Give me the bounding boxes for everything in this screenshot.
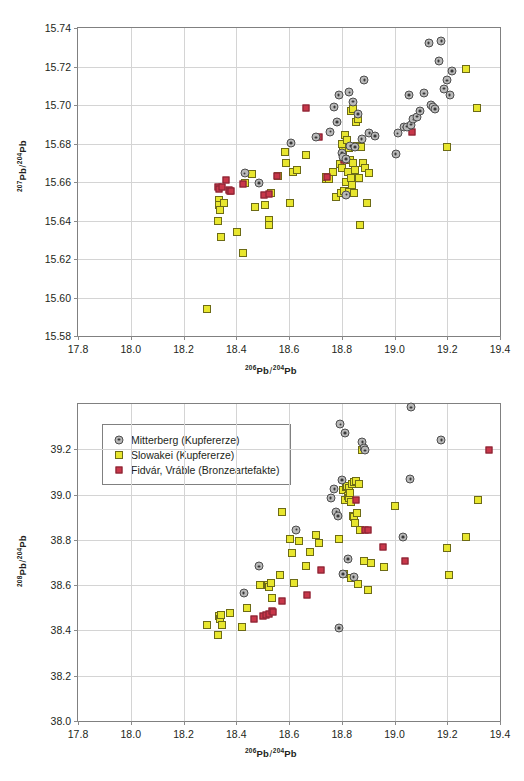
x-axis-title-base1: Pb (256, 748, 269, 759)
data-point (282, 159, 290, 167)
data-point (333, 512, 342, 521)
x-axis-tick-label: 19.0 (384, 728, 404, 740)
data-point (288, 549, 296, 557)
data-point (337, 475, 346, 484)
x-axis-tick (78, 336, 79, 340)
square-red-icon (112, 464, 126, 476)
data-point (265, 190, 272, 197)
data-point (214, 631, 222, 639)
square-yellow-icon (112, 449, 126, 461)
scatter-chart-pb207: 15.5815.6015.6215.6415.6615.6815.7015.72… (0, 0, 524, 390)
y-axis-tick-label: 15.72 (45, 61, 71, 73)
y-axis-tick-label: 15.74 (45, 22, 71, 34)
x-axis-tick-label: 18.0 (121, 728, 141, 740)
plot-area-pb207: 15.5815.6015.6215.6415.6615.6815.7015.72… (77, 27, 501, 337)
x-axis-tick (131, 721, 132, 725)
data-point (286, 199, 294, 207)
x-axis-tick (236, 721, 237, 725)
y-axis-title-pb208: 208Pb/204Pb (16, 535, 28, 587)
data-point (303, 105, 310, 112)
data-point (265, 221, 273, 229)
x-axis-tick (289, 336, 290, 340)
y-axis-tick (74, 495, 78, 496)
data-point (295, 537, 303, 545)
x-axis-title-base2: Pb (284, 748, 297, 759)
y-axis-tick-label: 15.62 (45, 253, 71, 265)
gridline-vertical (236, 404, 237, 721)
data-point (239, 589, 248, 598)
x-axis-tick (236, 336, 237, 340)
data-point (420, 89, 429, 98)
x-axis-tick (342, 721, 343, 725)
data-point (268, 594, 276, 602)
y-axis-tick-label: 39.0 (51, 489, 71, 501)
y-axis-tick (74, 105, 78, 106)
gridline-vertical (395, 404, 396, 721)
data-point (302, 151, 310, 159)
gridline-vertical (236, 28, 237, 336)
data-point (255, 178, 264, 187)
y-axis-tick-label: 38.2 (51, 670, 71, 682)
data-point (353, 509, 361, 517)
data-point (326, 127, 335, 136)
data-point (315, 539, 323, 547)
data-point (318, 566, 325, 573)
x-axis-tick (395, 336, 396, 340)
data-point (340, 428, 349, 437)
data-point (332, 117, 341, 126)
figure-page: 15.5815.6015.6215.6415.6615.6815.7015.72… (0, 0, 524, 781)
y-axis-tick-label: 38.6 (51, 579, 71, 591)
data-point (367, 559, 375, 567)
data-point (355, 480, 363, 488)
data-point (473, 104, 481, 112)
data-point (203, 305, 211, 313)
data-point (437, 436, 446, 445)
y-axis-tick-label: 38.4 (51, 624, 71, 636)
y-axis-tick (74, 540, 78, 541)
x-axis-tick-label: 18.4 (226, 343, 246, 355)
data-point (240, 169, 249, 178)
data-point (273, 173, 280, 180)
scatter-chart-pb208: Mitterberg (Kupfererze) Slowakei (Kupfer… (0, 390, 524, 781)
x-axis-tick (500, 336, 501, 340)
x-axis-title-sup1: 206 (245, 747, 256, 754)
data-point (290, 579, 298, 587)
data-point (269, 608, 276, 615)
data-point (345, 88, 354, 97)
plot-area-pb208: Mitterberg (Kupfererze) Slowakei (Kupfer… (77, 403, 501, 722)
x-axis-tick-label: 19.0 (384, 343, 404, 355)
x-axis-title-base1: Pb (256, 365, 269, 376)
y-axis-title-base1: Pb (17, 168, 28, 181)
data-point (335, 624, 344, 633)
data-point (334, 90, 343, 99)
x-axis-tick-label: 19.4 (490, 343, 510, 355)
data-point (391, 150, 400, 159)
data-point (485, 447, 492, 454)
data-point (214, 217, 222, 225)
data-point (278, 508, 286, 516)
data-point (443, 143, 451, 151)
x-axis-tick (500, 721, 501, 725)
circle-gray-icon (112, 434, 126, 446)
x-axis-tick-label: 18.8 (332, 728, 352, 740)
data-point (351, 142, 360, 151)
data-point (243, 604, 251, 612)
data-point (326, 493, 335, 502)
data-point (217, 233, 225, 241)
data-point (239, 249, 247, 257)
data-point (306, 548, 314, 556)
data-point (238, 623, 246, 631)
y-axis-title-base2: Pb (17, 535, 28, 548)
data-point (341, 155, 350, 164)
data-point (349, 97, 358, 106)
y-axis-title-pb207: 207Pb/204Pb (16, 140, 28, 192)
data-point (343, 555, 352, 564)
x-axis-title-base2: Pb (284, 365, 297, 376)
x-axis-tick (447, 336, 448, 340)
data-point (203, 621, 211, 629)
data-point (360, 446, 369, 455)
gridline-vertical (289, 28, 290, 336)
data-point (303, 591, 310, 598)
gridline-vertical (342, 404, 343, 721)
data-point (391, 502, 399, 510)
